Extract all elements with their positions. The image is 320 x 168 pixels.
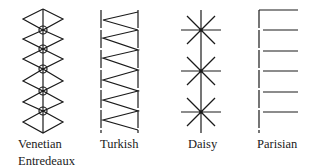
daisy-stitch-icon bbox=[181, 10, 221, 133]
venetian-label-line2: Entredeaux bbox=[18, 154, 76, 168]
parisian-label: Parisian bbox=[257, 137, 298, 151]
stitch-diagram: Venetian Entredeaux Turkish Daisy Parisi… bbox=[0, 0, 320, 168]
parisian-stitch-icon bbox=[259, 10, 298, 133]
daisy-label: Daisy bbox=[188, 137, 218, 151]
turkish-stitch-icon bbox=[101, 10, 138, 133]
venetian-label-line1: Venetian bbox=[18, 137, 62, 151]
venetian-entredeaux-stitch-icon bbox=[23, 9, 63, 133]
turkish-label: Turkish bbox=[100, 137, 139, 151]
